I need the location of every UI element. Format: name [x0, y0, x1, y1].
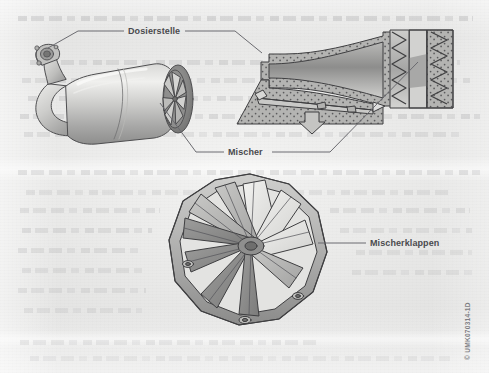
leader-mischer-left	[160, 103, 224, 152]
leader-dosierstelle-right	[185, 31, 262, 53]
copyright-notice: © UMK070314-1D	[464, 302, 471, 360]
leader-dosierstelle-left	[48, 31, 124, 48]
callout-label-mischerklappen: Mischerklappen	[370, 239, 439, 248]
callout-label-dosierstelle: Dosierstelle	[128, 27, 180, 36]
callout-label-mischer: Mischer	[228, 148, 263, 157]
leader-lines	[0, 0, 489, 373]
leader-mischer-right	[272, 62, 418, 152]
diagram-page: Dosierstelle Mischer Mischerklappen © UM…	[0, 0, 489, 373]
